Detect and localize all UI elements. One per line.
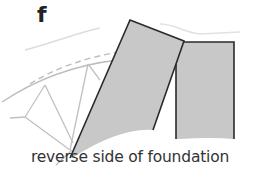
figure-caption: reverse side of foundation <box>0 150 260 166</box>
fabric-outline-right <box>160 24 240 34</box>
step-label: f <box>37 4 47 26</box>
fabric-outline <box>25 28 100 50</box>
foundation-panel-right <box>176 42 234 139</box>
